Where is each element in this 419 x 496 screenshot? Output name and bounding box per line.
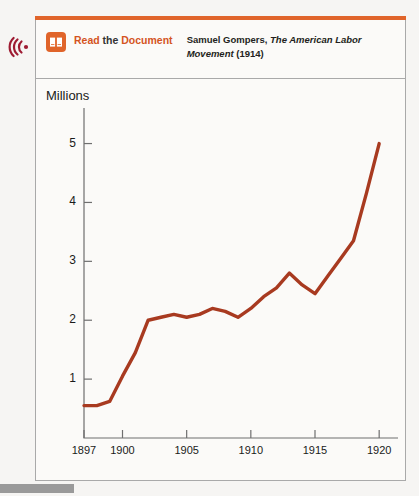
citation-text: Samuel Gompers, The American Labor Movem… [187, 33, 397, 61]
y-tick-label: 1 [54, 371, 76, 385]
x-tick-label: 1910 [231, 444, 271, 456]
read-the-document-label[interactable]: Read the Document [74, 34, 173, 46]
x-tick-label: 1905 [167, 444, 207, 456]
chart-axes [84, 108, 398, 438]
line-chart: Millions 12345189719001905191019151920 [36, 80, 405, 480]
audio-listen-icon[interactable] [6, 33, 34, 61]
y-tick-label: 5 [54, 136, 76, 150]
citation-year: (1914) [234, 48, 264, 59]
y-tick-label: 3 [54, 253, 76, 267]
document-word: Document [121, 34, 172, 46]
x-tick-label: 1897 [64, 444, 104, 456]
read-word: Read [74, 34, 100, 46]
x-tick-label: 1900 [103, 444, 143, 456]
page-footer-bar [0, 484, 74, 493]
chart-plot [36, 80, 405, 480]
open-book-icon[interactable] [46, 32, 66, 52]
x-tick-label: 1915 [295, 444, 335, 456]
citation-author: Samuel Gompers, [187, 34, 270, 45]
x-tick-label: 1920 [359, 444, 399, 456]
y-tick-label: 2 [54, 312, 76, 326]
open-book-glyph [49, 36, 63, 48]
the-word: the [100, 34, 122, 46]
y-tick-label: 4 [54, 194, 76, 208]
chart-line-series [84, 144, 379, 406]
audio-listen-glyph [6, 33, 34, 61]
callout-header: Read the Document Samuel Gompers, The Am… [36, 21, 405, 79]
callout-top-rule [35, 16, 406, 20]
